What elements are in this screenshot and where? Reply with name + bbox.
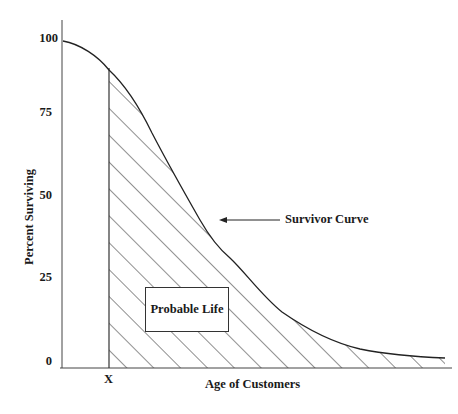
y-tick-75: 75 — [22, 105, 52, 120]
y-tick-0: 0 — [22, 354, 52, 369]
arrow-head-icon — [219, 217, 227, 223]
x-axis-label: Age of Customers — [205, 377, 300, 392]
x-tick-x: X — [104, 372, 113, 387]
y-tick-100: 100 — [28, 31, 58, 46]
probable-life-label: Probable Life — [150, 302, 223, 317]
y-tick-25: 25 — [22, 270, 52, 285]
probable-life-box: Probable Life — [145, 287, 229, 332]
y-axis-label: Percent Surviving — [22, 169, 37, 265]
survivor-curve-label: Survivor Curve — [285, 212, 368, 227]
survivor-chart — [0, 0, 458, 414]
